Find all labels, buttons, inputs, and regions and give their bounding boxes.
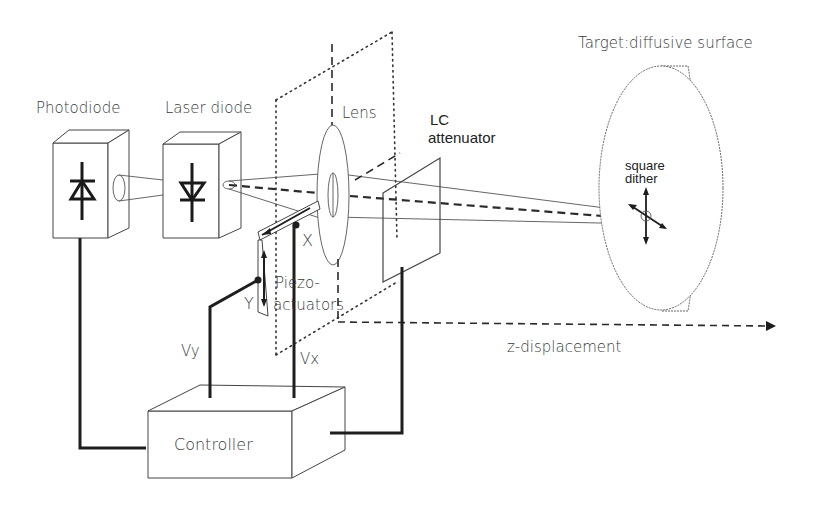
lc-label: LC xyxy=(430,111,449,128)
laser-diode-label: Laser diode xyxy=(165,99,252,117)
lens-label: Lens xyxy=(342,104,377,122)
lens xyxy=(317,44,400,320)
x-axis-label: X xyxy=(302,231,313,250)
target-disc xyxy=(599,66,723,311)
actuators-label: actuators xyxy=(273,296,344,314)
lc-attenuator xyxy=(383,158,440,282)
photodiode-box xyxy=(53,130,163,238)
dither-label: dither xyxy=(625,171,658,186)
photodiode-label: Photodiode xyxy=(36,99,120,117)
arrow-head-icon xyxy=(766,321,776,331)
vx-label: Vx xyxy=(300,350,319,368)
wire-photodiode xyxy=(80,238,146,448)
controller-label: Controller xyxy=(174,435,253,454)
vy-label: Vy xyxy=(181,342,200,360)
piezo-label: Piezo- xyxy=(275,274,320,292)
y-axis-label: Y xyxy=(244,294,254,313)
controller-box[interactable] xyxy=(148,385,345,478)
z-displacement-arrow xyxy=(338,321,776,331)
attenuator-label: attenuator xyxy=(428,129,496,146)
z-displacement-label: z-displacement xyxy=(507,338,621,356)
diagram-canvas: Photodiode Laser diode Lens LC attenuato… xyxy=(0,0,835,508)
target-label: Target:diffusive surface xyxy=(578,34,753,52)
